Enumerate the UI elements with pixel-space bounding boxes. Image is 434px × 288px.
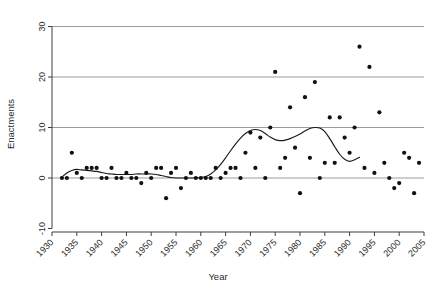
data-point bbox=[60, 176, 64, 180]
y-tick-label-20: 20 bbox=[37, 72, 47, 82]
data-point bbox=[109, 166, 113, 170]
data-point bbox=[273, 70, 277, 74]
data-point bbox=[209, 176, 213, 180]
data-point bbox=[164, 196, 168, 200]
data-point bbox=[328, 115, 332, 119]
x-tick-label-2000: 2000 bbox=[381, 237, 402, 258]
x-tick-label-1950: 1950 bbox=[133, 237, 154, 258]
x-tick-label-1990: 1990 bbox=[332, 237, 353, 258]
x-tick-label-1945: 1945 bbox=[109, 237, 130, 258]
data-point bbox=[233, 166, 237, 170]
data-point bbox=[318, 176, 322, 180]
data-point bbox=[303, 95, 307, 99]
data-point bbox=[283, 156, 287, 160]
data-point bbox=[362, 166, 366, 170]
data-point bbox=[238, 176, 242, 180]
data-point bbox=[243, 151, 247, 155]
x-tick-label-2005: 2005 bbox=[406, 237, 427, 258]
data-point bbox=[169, 171, 173, 175]
x-tick-label-1930: 1930 bbox=[34, 237, 55, 258]
data-point bbox=[179, 186, 183, 190]
data-point bbox=[75, 171, 79, 175]
x-tick-label-1980: 1980 bbox=[282, 237, 303, 258]
data-point bbox=[100, 176, 104, 180]
data-point bbox=[298, 191, 302, 195]
data-point bbox=[214, 166, 218, 170]
data-point bbox=[348, 151, 352, 155]
y-tick-label-0: 0 bbox=[37, 175, 47, 180]
trend-curve-group bbox=[62, 127, 360, 178]
data-point bbox=[174, 166, 178, 170]
data-point bbox=[288, 105, 292, 109]
data-point bbox=[224, 171, 228, 175]
data-point bbox=[382, 161, 386, 165]
data-points-group bbox=[60, 45, 421, 201]
x-axis-label: Year bbox=[208, 271, 227, 282]
tick-marks-group bbox=[48, 27, 424, 237]
x-tick-label-1965: 1965 bbox=[208, 237, 229, 258]
x-tick-label-1960: 1960 bbox=[183, 237, 204, 258]
data-point bbox=[95, 166, 99, 170]
data-point bbox=[258, 136, 262, 140]
data-point bbox=[194, 176, 198, 180]
data-point bbox=[343, 136, 347, 140]
data-point bbox=[397, 181, 401, 185]
axes-group bbox=[52, 27, 424, 233]
data-point bbox=[184, 176, 188, 180]
data-point bbox=[333, 161, 337, 165]
y-tick-label--10: -10 bbox=[37, 222, 47, 235]
data-point bbox=[313, 80, 317, 84]
tick-labels-group: -100102030193019351940194519501955196019… bbox=[34, 21, 427, 258]
data-point bbox=[119, 176, 123, 180]
data-point bbox=[114, 176, 118, 180]
data-point bbox=[85, 166, 89, 170]
data-point bbox=[323, 161, 327, 165]
data-point bbox=[70, 151, 74, 155]
data-point bbox=[357, 45, 361, 49]
data-point bbox=[228, 166, 232, 170]
data-point bbox=[124, 171, 128, 175]
data-point bbox=[293, 146, 297, 150]
data-point bbox=[402, 151, 406, 155]
data-point bbox=[367, 65, 371, 69]
x-tick-label-1955: 1955 bbox=[158, 237, 179, 258]
data-point bbox=[139, 181, 143, 185]
x-tick-label-1940: 1940 bbox=[84, 237, 105, 258]
data-point bbox=[104, 176, 108, 180]
x-tick-label-1985: 1985 bbox=[307, 237, 328, 258]
data-point bbox=[159, 166, 163, 170]
x-tick-label-1995: 1995 bbox=[357, 237, 378, 258]
data-point bbox=[392, 186, 396, 190]
data-point bbox=[189, 171, 193, 175]
data-point bbox=[65, 176, 69, 180]
data-point bbox=[149, 176, 153, 180]
gridlines-group bbox=[52, 27, 424, 179]
data-point bbox=[352, 125, 356, 129]
data-point bbox=[417, 161, 421, 165]
y-axis-label: Enactments bbox=[5, 99, 16, 149]
data-point bbox=[278, 166, 282, 170]
data-point bbox=[154, 166, 158, 170]
x-tick-label-1935: 1935 bbox=[59, 237, 80, 258]
data-point bbox=[338, 115, 342, 119]
data-point bbox=[90, 166, 94, 170]
data-point bbox=[80, 176, 84, 180]
data-point bbox=[129, 176, 133, 180]
data-point bbox=[387, 176, 391, 180]
y-tick-label-30: 30 bbox=[37, 21, 47, 31]
data-point bbox=[377, 110, 381, 114]
data-point bbox=[372, 171, 376, 175]
data-point bbox=[199, 176, 203, 180]
y-tick-label-10: 10 bbox=[37, 122, 47, 132]
chart-figure: -100102030193019351940194519501955196019… bbox=[0, 0, 434, 288]
trend-curve bbox=[62, 127, 360, 178]
scatter-plot-canvas: -100102030193019351940194519501955196019… bbox=[0, 0, 434, 288]
x-tick-label-1975: 1975 bbox=[257, 237, 278, 258]
data-point bbox=[412, 191, 416, 195]
data-point bbox=[407, 156, 411, 160]
data-point bbox=[263, 176, 267, 180]
data-point bbox=[204, 176, 208, 180]
data-point bbox=[248, 130, 252, 134]
data-point bbox=[253, 166, 257, 170]
data-point bbox=[134, 176, 138, 180]
